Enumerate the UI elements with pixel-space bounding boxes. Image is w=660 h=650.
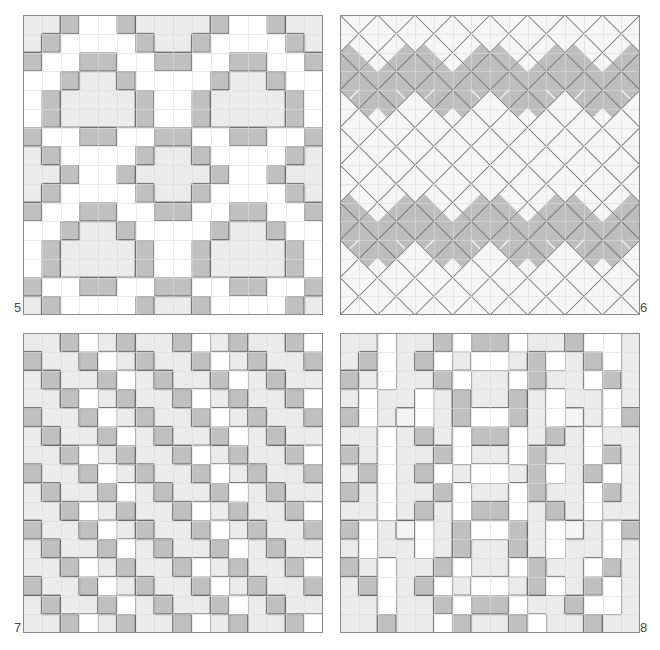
plate-7: [23, 333, 323, 633]
pattern-sheet: 5 6 7 8: [0, 0, 660, 650]
plate-6: [340, 15, 640, 315]
plate-6-label: 6: [640, 301, 648, 314]
plate-8-canvas: [340, 333, 640, 633]
plate-8: [340, 333, 640, 633]
plate-5: [23, 15, 323, 315]
plate-5-label: 5: [14, 301, 22, 314]
plate-6-canvas: [340, 15, 640, 315]
plate-8-label: 8: [640, 621, 648, 634]
plate-7-canvas: [23, 333, 323, 633]
plate-7-label: 7: [14, 621, 22, 634]
plate-5-canvas: [23, 15, 323, 315]
